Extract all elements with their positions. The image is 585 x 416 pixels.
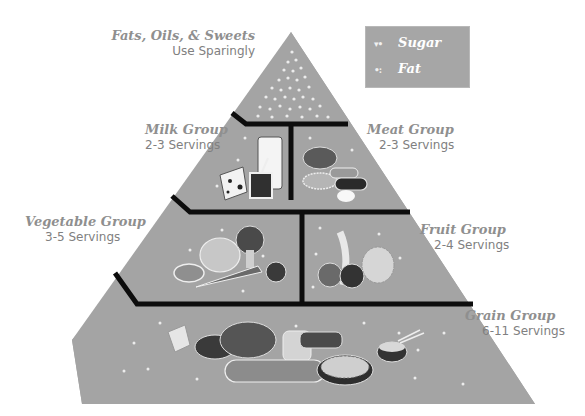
group-servings: 2-4 Servings [420,238,509,252]
label-fats-oils-sweets: Fats, Oils, & Sweets Use Sparingly [150,28,255,58]
legend-item-sugar: ▾•Sugar [374,35,441,50]
group-title: Fats, Oils, & Sweets [110,28,255,43]
label-vegetable-group: Vegetable Group 3-5 Servings [25,214,133,244]
group-title: Meat Group [367,122,454,137]
label-fruit-group: Fruit Group 2-4 Servings [420,222,509,252]
label-milk-group: Milk Group 2-3 Servings [145,122,225,152]
legend-label-fat: Fat [398,61,421,76]
label-grain-group: Grain Group 6-11 Servings [465,308,565,338]
group-title: Vegetable Group [25,214,133,229]
group-servings: Use Sparingly [150,44,255,58]
food-pyramid-diagram: ▾•Sugar •:Fat Fats, Oils, & Sweets Use S… [0,0,585,416]
legend-box: ▾•Sugar •:Fat [365,26,470,88]
group-title: Grain Group [465,308,565,323]
group-servings: 2-3 Servings [367,138,454,152]
group-servings: 2-3 Servings [145,138,225,152]
sugar-dot-icon: ▾• [374,39,388,49]
fat-dot-icon: •: [374,65,388,75]
group-title: Milk Group [145,122,225,137]
group-title: Fruit Group [420,222,509,237]
group-servings: 3-5 Servings [25,230,133,244]
label-meat-group: Meat Group 2-3 Servings [367,122,454,152]
group-servings: 6-11 Servings [465,324,565,338]
legend-label-sugar: Sugar [398,35,441,50]
pyramid-graphic [0,0,585,416]
legend-item-fat: •:Fat [374,61,421,76]
